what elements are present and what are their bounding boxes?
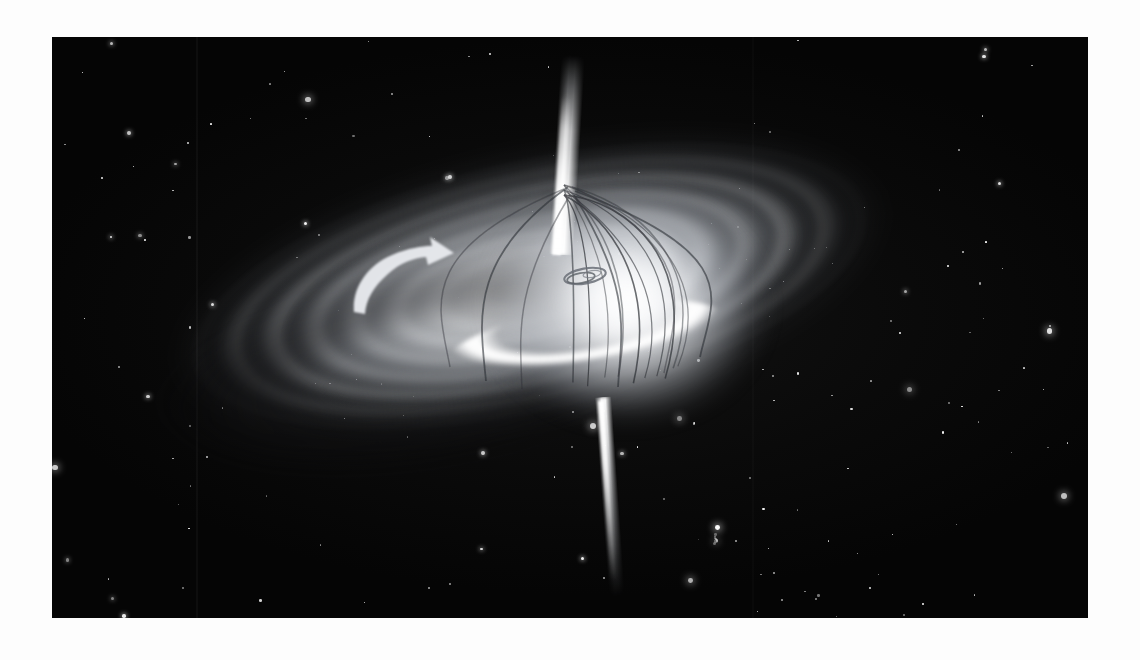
disk-outer-haze	[107, 49, 954, 521]
central-bulge-glow	[477, 172, 787, 432]
space-photograph-plate	[52, 37, 1088, 618]
central-bulge-core	[538, 233, 718, 363]
disk-spiral-bands	[144, 74, 915, 497]
disk-mid-glow	[244, 126, 836, 453]
page-root	[0, 0, 1140, 660]
disk-dust-lane	[131, 119, 869, 520]
bright-inner-rim	[433, 282, 743, 414]
accretion-disk	[52, 37, 1088, 618]
